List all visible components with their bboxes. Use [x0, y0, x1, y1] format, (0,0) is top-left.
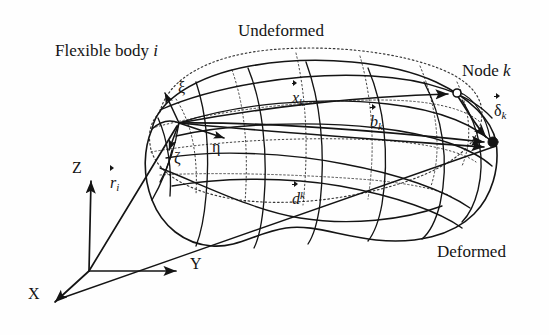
- axis-label-xi: ξ: [178, 80, 185, 96]
- vector-r-i-line: [89, 126, 177, 271]
- label-node-index: k: [503, 61, 511, 80]
- axis-label-x: X: [28, 286, 40, 302]
- label-deformed: Deformed: [437, 243, 506, 260]
- axis-z-line: [89, 181, 91, 271]
- vector-sub-k-b: k: [378, 120, 383, 132]
- global-axes: [55, 181, 176, 302]
- construction-line-oblique: [62, 146, 496, 298]
- axis-x-line: [55, 271, 89, 302]
- axis-label-eta: η: [212, 139, 220, 155]
- vector-symbol-b: b: [370, 113, 378, 130]
- label-undeformed: Undeformed: [238, 22, 324, 39]
- node-k-undeformed-marker: [453, 89, 461, 97]
- vector-symbol-x: x: [292, 89, 299, 106]
- vector-label-b-k: bk: [370, 114, 383, 132]
- label-flexible-body: Flexible body i: [55, 42, 158, 59]
- vector-label-x-k: xk: [292, 90, 304, 108]
- axis-label-y: Y: [190, 256, 202, 272]
- vector-sub-k: k: [299, 96, 304, 108]
- vector-d-k-line: [179, 123, 484, 147]
- vector-x-k-line: [179, 94, 448, 123]
- vector-sub-i: i: [116, 181, 119, 193]
- label-flexible-body-index: i: [153, 41, 158, 60]
- node-k-deformed-marker: [488, 137, 498, 147]
- vector-sub-k-delta: k: [502, 109, 507, 121]
- vector-sup-k: k: [300, 189, 305, 201]
- axis-label-zeta: ζ: [174, 150, 181, 166]
- vector-symbol-d: d: [292, 190, 300, 207]
- vector-label-d-k: dk: [292, 190, 305, 207]
- axis-label-z: Z: [72, 160, 82, 176]
- label-node-k: Node k: [462, 62, 511, 79]
- vector-symbol-r: r: [110, 174, 116, 191]
- figure-canvas: Flexible body i Undeformed Node k Deform…: [0, 0, 549, 335]
- vector-label-r-i: ri: [110, 175, 119, 193]
- vector-label-delta-k: δk: [494, 103, 506, 121]
- vector-symbol-delta: δ: [494, 102, 502, 119]
